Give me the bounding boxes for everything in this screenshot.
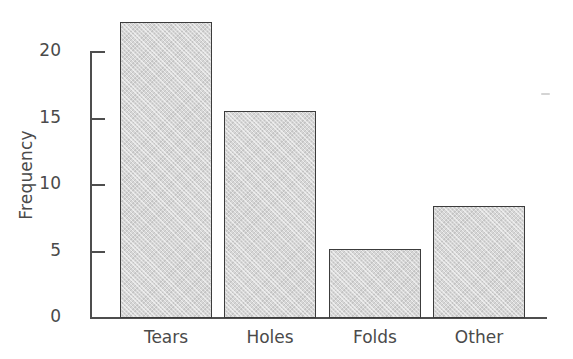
y-axis-tick [91, 317, 105, 319]
y-axis-tick [91, 184, 105, 186]
bar-tears [120, 22, 212, 318]
bar-holes [224, 111, 316, 318]
category-label-other: Other [419, 327, 539, 347]
category-label-holes: Holes [210, 327, 330, 347]
bar-other [433, 206, 525, 318]
y-axis-tick-label: 5 [15, 242, 61, 259]
bar-folds [329, 249, 421, 318]
category-label-folds: Folds [315, 327, 435, 347]
bar-chart: Frequency 20151050 TearsHolesFoldsOther [0, 0, 573, 359]
y-axis-tick [91, 51, 105, 53]
category-label-tears: Tears [106, 327, 226, 347]
y-axis-tick [91, 251, 105, 253]
y-axis-tick-label: 0 [15, 308, 61, 325]
y-axis-tick-label: 20 [15, 42, 61, 59]
scan-artifact-speck [541, 93, 550, 95]
y-axis-tick [91, 118, 105, 120]
y-axis-tick-label: 10 [15, 175, 61, 192]
y-axis-tick-label: 15 [15, 109, 61, 126]
